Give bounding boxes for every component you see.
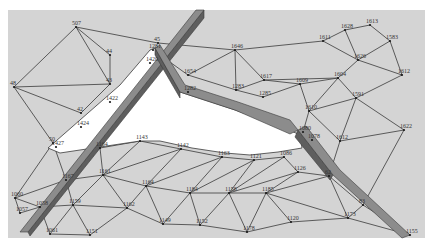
mesh-node [401,74,403,76]
node-label: 1164 [142,179,154,185]
mesh-node [263,79,265,81]
node-label: 1617 [260,73,272,79]
node-label: 44 [106,48,112,54]
node-label: 1061 [46,227,58,233]
node-label: 1609 [296,77,308,83]
mesh-node [337,77,339,79]
node-label: 1628 [341,23,353,29]
mesh-node [189,192,191,194]
mesh-node [13,86,15,88]
mesh-node [262,96,264,98]
node-label: 62 [325,169,331,175]
mesh-node [369,24,371,26]
node-label: 1583 [386,34,398,40]
node-label: 1282 [184,85,196,91]
node-label: 1610 [305,104,317,110]
node-label: 1167 [62,173,74,179]
node-label: 1173 [344,211,356,217]
mesh-node [253,159,255,161]
node-label: 1060 [11,191,23,197]
node-label: 1151 [86,228,98,234]
mesh-node [152,49,154,51]
node-label: 1420 [146,56,158,62]
mesh-node [19,212,21,214]
node-label: 42 [77,106,83,112]
node-label: 1184 [186,186,198,192]
node-label: 1149 [159,217,171,223]
mesh-node [409,234,411,236]
mesh-node [299,83,301,85]
mesh-node [355,97,357,99]
mesh-node [187,74,189,76]
node-label: 1427 [52,140,64,146]
node-label: 1159 [69,198,81,204]
node-label: 1281 [149,43,161,49]
mesh-node [109,101,111,103]
node-label: 1646 [231,43,243,49]
node-label: 1155 [406,228,418,234]
node-label: 48 [10,80,16,86]
mesh-node [311,139,313,141]
mesh-node [362,204,364,206]
node-label: 1654 [184,68,196,74]
node-label: 1126 [294,165,306,171]
node-label: 1611 [319,34,331,40]
mesh-node [187,91,189,93]
mesh-node [65,179,67,181]
node-label: 45 [154,36,160,42]
node-label: 43 [106,77,112,83]
mesh-node [109,83,111,85]
mesh-node [344,29,346,31]
mesh-node [99,147,101,149]
mesh-node [235,89,237,91]
mesh-node [290,221,292,223]
mesh-node [234,49,236,51]
node-label: 1152 [196,218,208,224]
mesh-node [180,148,182,150]
node-label: 1604 [334,71,346,77]
mesh-node [265,192,267,194]
node-label: 1080 [299,125,311,131]
mesh-diagram: 5074844451281142043142242142450142716541… [0,0,435,249]
mesh-node [283,156,285,158]
mesh-node [347,217,349,219]
mesh-node [109,54,111,56]
node-label: 1164 [96,141,108,147]
node-label: 1142 [177,142,189,148]
mesh-node [308,110,310,112]
node-label: 1120 [287,215,299,221]
mesh-node [199,224,201,226]
node-label: 1591 [352,91,364,97]
mesh-node [302,131,304,133]
node-label: 1058 [36,200,48,206]
node-label: 1613 [366,18,378,24]
mesh-node [228,192,230,194]
mesh-node [389,40,391,42]
mesh-node [126,207,128,209]
mesh-node [49,233,51,235]
node-label: 507 [72,20,81,26]
node-label: 1283 [232,83,244,89]
node-label: 1161 [99,168,111,174]
mesh-node [102,174,104,176]
node-label: 1143 [136,134,148,140]
mesh-node [246,231,248,233]
node-label: 1163 [218,150,230,156]
mesh-node [139,140,141,142]
mesh-node [55,146,57,148]
node-label: 1057 [16,206,28,212]
node-label: 1622 [400,123,412,129]
mesh-node [39,206,41,208]
mesh-node [149,62,151,64]
node-label: 83 [359,198,365,204]
node-label: 1422 [106,95,118,101]
mesh-node [403,129,405,131]
mesh-node [221,156,223,158]
mesh-node [322,40,324,42]
mesh-node [75,26,77,28]
node-label: 1285 [259,90,271,96]
mesh-node [162,223,164,225]
mesh-node [357,59,359,61]
node-label: 1158 [225,186,237,192]
mesh-node [80,126,82,128]
